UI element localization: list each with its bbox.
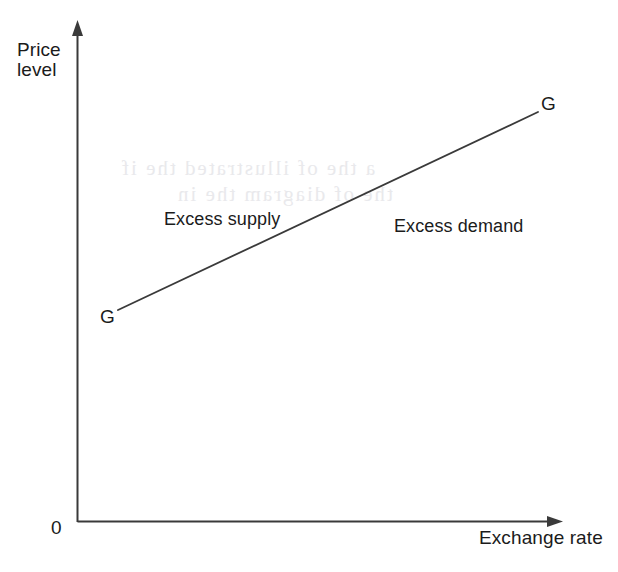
y-axis-arrowhead-icon (72, 20, 83, 36)
x-axis-label: Exchange rate (479, 528, 603, 547)
y-axis-label: Price level (17, 40, 61, 80)
region-label-excess-supply: Excess supply (164, 210, 280, 228)
y-axis-label-line-2: level (17, 60, 61, 80)
gg-curve-label-left: G (100, 307, 115, 326)
origin-label: 0 (51, 518, 62, 537)
gg-curve-label-right: G (541, 94, 556, 113)
chart-canvas (0, 0, 618, 572)
region-label-excess-demand: Excess demand (394, 217, 523, 235)
y-axis-label-line-1: Price (17, 40, 61, 60)
x-axis-arrowhead-icon (547, 516, 563, 527)
economics-diagram-figure: a the of illustrated the if the of diagr… (0, 0, 618, 572)
